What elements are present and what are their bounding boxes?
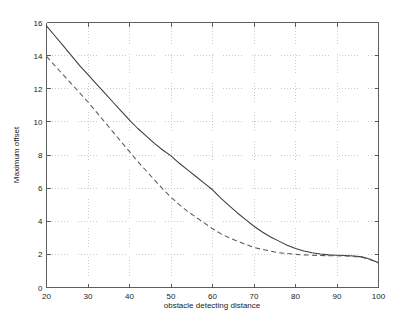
y-tick-label: 0 [38,284,43,293]
line-chart: 20304050607080901000246810121416 obstacl… [0,0,402,325]
x-tick-label: 70 [250,292,259,301]
y-tick-label: 16 [34,19,43,28]
x-tick-label: 30 [84,292,93,301]
x-tick-label: 20 [42,292,51,301]
x-tick-label: 100 [372,292,386,301]
chart-figure: 20304050607080901000246810121416 obstacl… [0,0,402,325]
x-tick-label: 90 [333,292,342,301]
y-tick-label: 2 [38,250,43,259]
x-tick-label: 40 [125,292,134,301]
y-tick-label: 8 [38,151,43,160]
grid-lines [47,23,379,288]
x-tick-label: 60 [208,292,217,301]
x-tick-label: 80 [291,292,300,301]
y-axis-title: Maximum offset [12,126,21,183]
y-tick-label: 14 [34,52,43,61]
y-tick-label: 12 [34,85,43,94]
series-solid-curve [47,26,379,263]
series-dashed-curve [47,56,379,263]
x-tick-label: 50 [167,292,176,301]
tick-labels: 20304050607080901000246810121416 [34,19,386,301]
y-tick-label: 6 [38,184,43,193]
y-tick-label: 4 [38,217,43,226]
x-axis-title: obstacle detecting distance [164,301,261,310]
y-tick-label: 10 [34,118,43,127]
